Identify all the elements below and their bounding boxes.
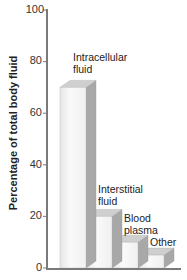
bar-side bbox=[112, 209, 122, 268]
bar-label-blood-plasma: Blood plasma bbox=[124, 212, 158, 236]
bar-chart: Percentage of total body fluid 0 20 40 6… bbox=[0, 0, 187, 280]
y-tick-60: 60 bbox=[20, 106, 42, 118]
bar-label-intracellular: Intracellular fluid bbox=[73, 51, 127, 75]
bar-label-other: Other bbox=[150, 236, 176, 248]
bar-0 bbox=[60, 80, 96, 268]
bar-label-interstitial: Interstitial fluid bbox=[98, 183, 143, 207]
y-tick-100: 100 bbox=[22, 3, 44, 15]
y-tick-20: 20 bbox=[20, 209, 42, 221]
y-tick-0: 0 bbox=[20, 261, 42, 273]
bar-front bbox=[60, 87, 86, 268]
y-axis-label: Percentage of total body fluid bbox=[7, 53, 21, 213]
y-tick-40: 40 bbox=[20, 158, 42, 170]
bar-side bbox=[86, 80, 96, 268]
y-tick-80: 80 bbox=[20, 54, 42, 66]
